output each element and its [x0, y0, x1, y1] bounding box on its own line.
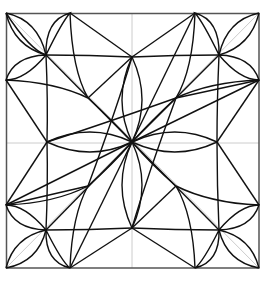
geometric-pattern-figure — [0, 0, 266, 284]
pattern-canvas — [0, 0, 266, 284]
